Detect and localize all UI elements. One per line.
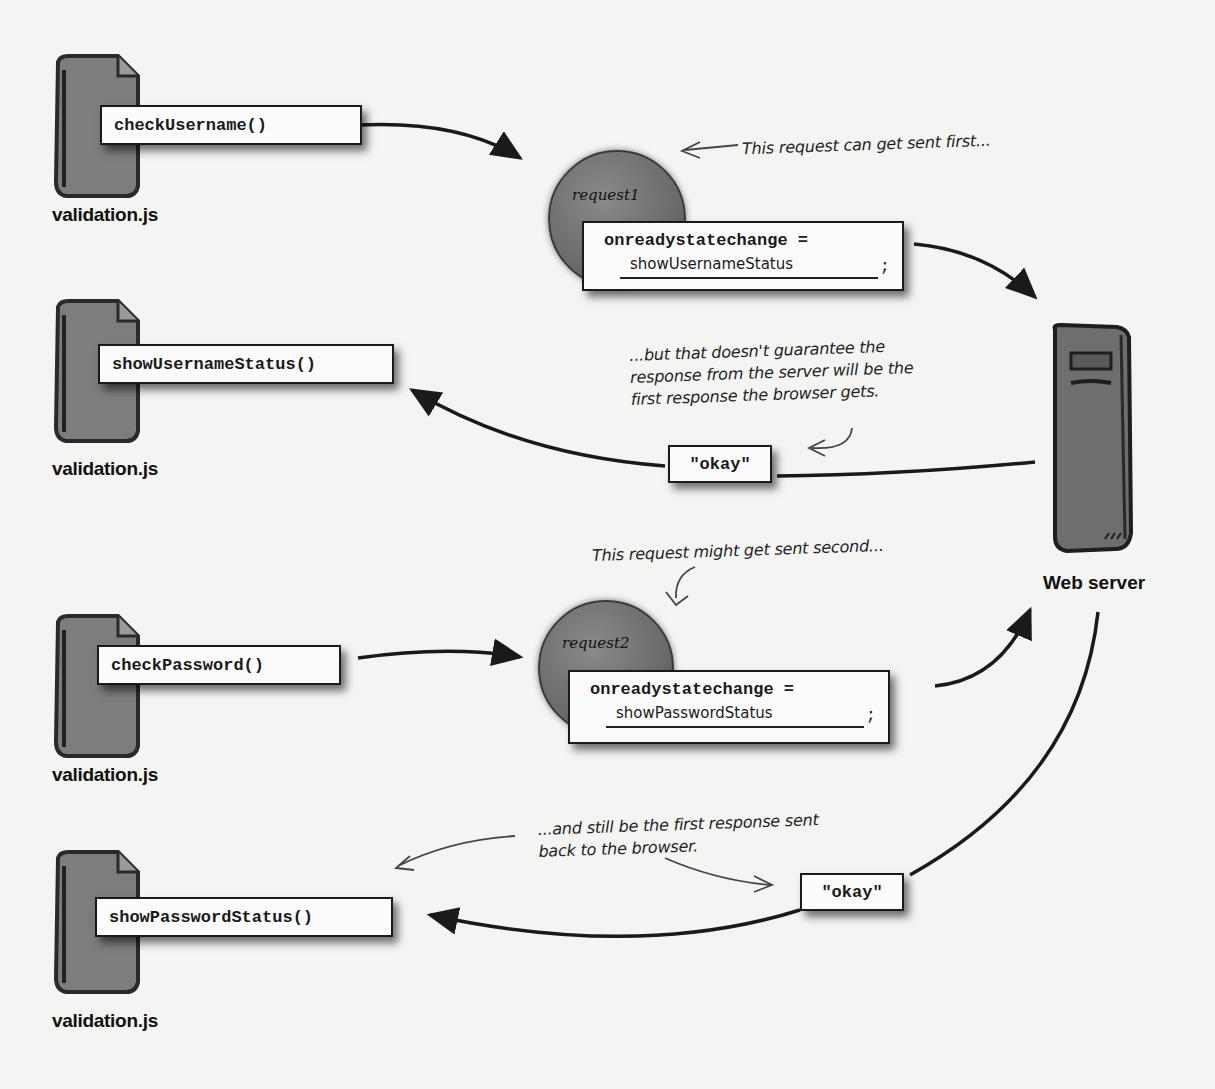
function-check-password: checkPassword() [97, 645, 341, 685]
file-label: validation.js [52, 1010, 158, 1032]
request1-handler: showUsernameStatus [620, 255, 878, 279]
response1-okay: "okay" [668, 445, 772, 483]
function-show-username-status: showUsernameStatus() [98, 344, 394, 384]
file-label: validation.js [52, 204, 158, 226]
request2-terminator: ; [866, 706, 876, 725]
file-label: validation.js [52, 458, 158, 480]
request1-handler-box: onreadystatechange = showUsernameStatus … [582, 221, 904, 291]
request1-terminator: ; [880, 257, 890, 276]
function-show-password-status: showPasswordStatus() [95, 897, 393, 937]
file-label: validation.js [52, 764, 158, 786]
response2-okay: "okay" [800, 873, 904, 911]
note-no-guarantee: ...but that doesn't guarantee the respon… [629, 335, 915, 411]
function-check-username: checkUsername() [100, 105, 362, 145]
request1-assignment: onreadystatechange = [604, 231, 808, 250]
request2-handler-box: onreadystatechange = showPasswordStatus … [568, 670, 890, 744]
request1-label: request1 [572, 186, 639, 204]
request2-handler: showPasswordStatus [606, 704, 864, 728]
web-server-icon [1045, 323, 1137, 553]
js-file-icon [50, 612, 142, 760]
web-server-label: Web server [1043, 572, 1145, 594]
request2-assignment: onreadystatechange = [590, 680, 794, 699]
request2-label: request2 [562, 634, 629, 652]
